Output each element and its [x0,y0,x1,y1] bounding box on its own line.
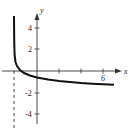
y-tick-label-neg2: -2 [25,89,32,98]
x-axis-arrow-icon [115,69,122,74]
y-tick-label-neg4: -4 [25,110,32,119]
y-axis-label: y [39,6,44,15]
x-tick-label-6: 6 [101,74,105,83]
y-tick-label-4: 4 [28,24,32,33]
graph: y x 4 2 -2 -4 6 [0,0,130,128]
y-axis-arrow-icon [35,13,40,20]
x-axis-label: x [123,67,128,76]
y-tick-label-2: 2 [28,45,32,54]
